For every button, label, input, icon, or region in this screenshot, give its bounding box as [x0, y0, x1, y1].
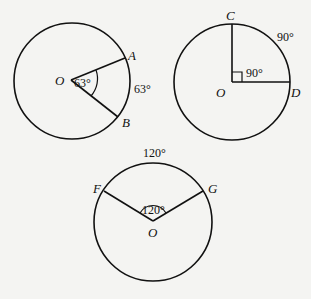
label-O-3: O — [148, 225, 158, 240]
label-O-2: O — [216, 85, 226, 100]
label-A: A — [127, 48, 136, 63]
label-G: G — [208, 181, 218, 196]
right-angle-marker — [232, 72, 242, 82]
angle-arc-63 — [91, 70, 98, 96]
circle-90-figure: O 90° C D 90° — [174, 8, 301, 140]
label-B: B — [122, 115, 130, 130]
label-O-1: O — [55, 73, 65, 88]
label-C: C — [226, 8, 235, 23]
central-angle-90: 90° — [246, 66, 263, 80]
arc-label-120: 120° — [143, 146, 166, 160]
circle-63-figure: O 63° A B 63° — [14, 23, 151, 139]
central-angle-63: 63° — [74, 76, 91, 90]
label-F: F — [92, 181, 102, 196]
central-angle-120: 120° — [142, 203, 165, 217]
label-D: D — [290, 85, 301, 100]
arc-label-90: 90° — [277, 30, 294, 44]
arc-label-63: 63° — [134, 82, 151, 96]
central-angles-diagram: O 63° A B 63° O 90° C D 90° O 120° F G 1… — [0, 0, 311, 299]
circle-3 — [94, 163, 212, 281]
circle-120-figure: O 120° F G 120° — [92, 146, 218, 281]
